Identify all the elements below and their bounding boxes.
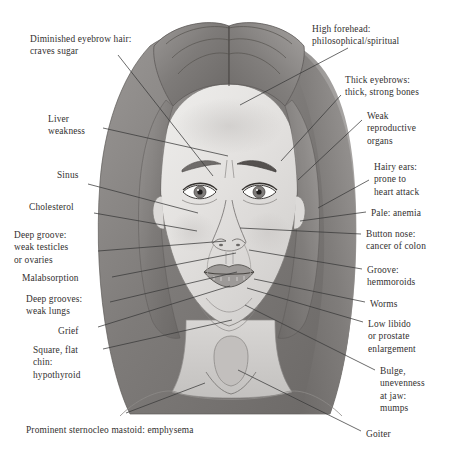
label-groove-hem: Groove: hemmoroids bbox=[367, 264, 415, 289]
nostril-left bbox=[219, 244, 223, 246]
label-square-chin: Square, flat chin: hypothyroid bbox=[33, 344, 80, 381]
label-worms: Worms bbox=[370, 298, 398, 310]
cheek-right-shading bbox=[244, 212, 292, 252]
label-weak-repro: Weak reproductive organs bbox=[367, 110, 416, 147]
label-thick-eyebrows: Thick eyebrows: thick, strong bones bbox=[345, 74, 419, 99]
label-liver: Liver weakness bbox=[48, 113, 85, 138]
nostril-right bbox=[236, 244, 240, 246]
face-reading-diagram: Diminished eyebrow hair: craves sugarLiv… bbox=[0, 0, 459, 460]
label-cholesterol: Cholesterol bbox=[29, 201, 74, 213]
label-deep-groove: Deep groove: weak testicles or ovaries bbox=[14, 229, 68, 266]
label-grief: Grief bbox=[58, 325, 79, 337]
forehead-shading bbox=[175, 98, 283, 154]
label-hairy-ears: Hairy ears: prone to heart attack bbox=[374, 161, 419, 198]
label-sinus: Sinus bbox=[57, 169, 79, 181]
label-bulge-jaw: Bulge, unevenness at jaw: mumps bbox=[380, 365, 425, 414]
caption-sternocleo: Prominent sternocleo mastoid: emphysema bbox=[26, 424, 194, 436]
label-high-forehead: High forehead: philosophical/spiritual bbox=[312, 23, 399, 48]
label-eyebrow-hair: Diminished eyebrow hair: craves sugar bbox=[30, 33, 132, 58]
label-malabsorption: Malabsorption bbox=[22, 272, 79, 284]
label-goiter: Goiter bbox=[366, 428, 391, 440]
label-deep-grooves: Deep grooves: weak lungs bbox=[26, 293, 82, 318]
label-low-libido: Low libido or prostate enlargement bbox=[368, 318, 416, 355]
cheek-left-shading bbox=[168, 212, 216, 252]
label-pale-anemia: Pale: anemia bbox=[371, 207, 421, 219]
label-button-nose: Button nose: cancer of colon bbox=[366, 228, 426, 253]
